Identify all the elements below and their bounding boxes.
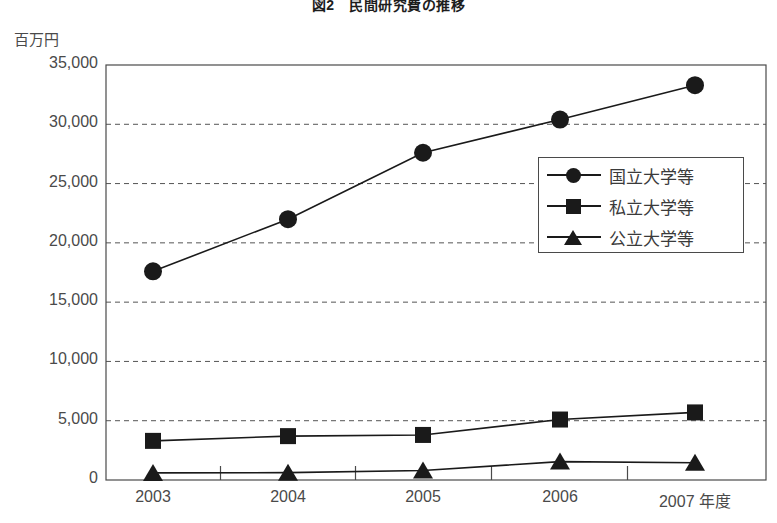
- y-axis-tick-label: 0: [8, 469, 98, 487]
- chart-legend: 国立大学等 私立大学等 公立大学等: [538, 157, 744, 253]
- y-axis-tick-label: 25,000: [8, 173, 98, 191]
- legend-label-national: 国立大学等: [609, 163, 694, 188]
- data-point-square[interactable]: [145, 433, 161, 449]
- data-point-square[interactable]: [552, 412, 568, 428]
- x-axis-tick-label: 2003: [83, 488, 223, 506]
- legend-square-marker-icon: [539, 192, 609, 220]
- y-axis-tick-label: 35,000: [8, 54, 98, 72]
- data-point-circle[interactable]: [551, 111, 569, 129]
- data-point-square[interactable]: [280, 428, 296, 444]
- data-point-circle[interactable]: [686, 76, 704, 94]
- chart-plot-area: [0, 0, 777, 523]
- legend-item-private[interactable]: 私立大学等: [539, 190, 745, 222]
- y-axis-tick-label: 20,000: [8, 232, 98, 250]
- axes-group: [106, 65, 766, 480]
- y-axis-tick-label: 5,000: [8, 410, 98, 428]
- legend-label-private: 私立大学等: [609, 194, 694, 219]
- y-axis-tick-label: 10,000: [8, 350, 98, 368]
- legend-item-national[interactable]: 国立大学等: [539, 159, 745, 191]
- y-axis-tick-label: 30,000: [8, 113, 98, 131]
- data-point-circle[interactable]: [414, 144, 432, 162]
- legend-triangle-marker-icon: [539, 223, 609, 251]
- legend-circle-marker-icon: [539, 161, 609, 189]
- data-series-group: [143, 76, 705, 481]
- y-axis-tick-label: 15,000: [8, 291, 98, 309]
- x-axis-tick-label: 2004: [218, 488, 358, 506]
- data-point-circle[interactable]: [279, 210, 297, 228]
- data-point-circle[interactable]: [144, 262, 162, 280]
- figure-container: 図2 民間研究費の推移 百万円 05,00010,00015,00020,000…: [0, 0, 777, 523]
- legend-label-public: 公立大学等: [609, 225, 694, 250]
- data-point-square[interactable]: [687, 404, 703, 420]
- data-point-square[interactable]: [415, 427, 431, 443]
- x-axis-tick-label: 2005: [353, 488, 493, 506]
- legend-item-public[interactable]: 公立大学等: [539, 221, 745, 253]
- x-axis-tick-label: 2006: [490, 488, 630, 506]
- x-axis-tick-label: 2007 年度: [625, 488, 765, 512]
